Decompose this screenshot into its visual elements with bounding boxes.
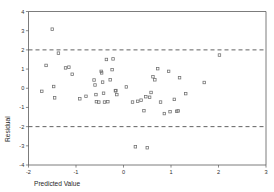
plot-canvas: -4-3-2-101234 -2-10123 Predicted Value R… xyxy=(0,0,274,192)
data-point xyxy=(51,28,54,31)
data-point xyxy=(140,99,143,102)
x-axis-ticks: -2-10123 xyxy=(26,165,268,175)
data-point xyxy=(103,101,106,104)
y-tick-label: -2 xyxy=(19,124,24,130)
data-point xyxy=(105,58,108,61)
y-tick-label: 2 xyxy=(21,47,24,53)
data-point xyxy=(143,109,146,112)
data-point xyxy=(53,97,56,100)
data-point xyxy=(79,98,82,101)
data-point xyxy=(64,67,67,70)
data-point xyxy=(173,98,176,101)
data-point xyxy=(156,67,159,70)
data-point xyxy=(98,101,101,104)
data-point xyxy=(145,95,148,98)
data-point xyxy=(159,101,162,104)
plot-frame xyxy=(29,12,267,166)
data-point xyxy=(134,146,137,149)
x-tick-label: 3 xyxy=(264,169,267,175)
data-point xyxy=(150,91,153,94)
y-tick-label: 0 xyxy=(21,85,24,91)
y-tick-label: 3 xyxy=(21,28,24,34)
data-points xyxy=(41,28,221,149)
x-tick-label: 2 xyxy=(217,169,220,175)
y-tick-label: 1 xyxy=(21,66,24,72)
data-point xyxy=(184,92,187,95)
data-point xyxy=(131,101,134,104)
data-point xyxy=(152,75,155,78)
data-point xyxy=(41,90,44,93)
data-point xyxy=(115,89,118,92)
data-point xyxy=(154,79,157,82)
y-axis-ticks: -4-3-2-101234 xyxy=(19,9,28,169)
data-point xyxy=(85,95,88,98)
data-point xyxy=(218,54,221,57)
data-point xyxy=(45,64,48,67)
y-tick-label: -4 xyxy=(19,162,24,168)
plot-border xyxy=(29,12,267,166)
data-point xyxy=(169,110,172,113)
data-point xyxy=(146,146,149,149)
y-tick-label: 4 xyxy=(21,9,24,15)
x-tick-label: -1 xyxy=(74,169,79,175)
data-point xyxy=(167,70,170,73)
data-point xyxy=(94,84,97,87)
data-point xyxy=(68,66,71,69)
x-tick-label: 0 xyxy=(122,169,125,175)
y-axis-title: Residual xyxy=(4,116,11,142)
data-point xyxy=(148,96,151,99)
data-point xyxy=(116,93,119,96)
x-axis-title: Predicted Value xyxy=(34,180,80,187)
y-tick-label: -3 xyxy=(19,143,24,149)
residual-scatter-chart: -4-3-2-101234 -2-10123 Predicted Value R… xyxy=(0,0,274,192)
data-point xyxy=(102,92,105,95)
x-tick-label: 1 xyxy=(169,169,172,175)
data-point xyxy=(71,73,74,76)
data-point xyxy=(203,81,206,84)
data-point xyxy=(95,93,98,96)
y-tick-label: -1 xyxy=(19,104,24,110)
data-point xyxy=(112,58,115,61)
data-point xyxy=(107,100,110,103)
data-point xyxy=(52,85,55,88)
data-point xyxy=(178,76,181,79)
data-point xyxy=(125,86,128,89)
data-point xyxy=(93,79,96,82)
data-point xyxy=(111,68,114,71)
x-tick-label: -2 xyxy=(26,169,31,175)
data-point xyxy=(109,79,112,82)
data-point xyxy=(163,112,166,115)
reference-lines xyxy=(29,50,267,127)
data-point xyxy=(137,100,140,103)
data-point xyxy=(101,81,104,84)
data-point xyxy=(57,52,60,55)
